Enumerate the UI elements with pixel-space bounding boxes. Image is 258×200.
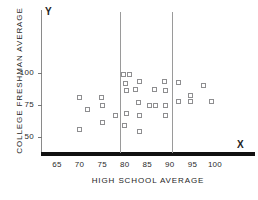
data-point — [188, 99, 193, 104]
reference-line-0 — [120, 12, 121, 153]
data-point — [176, 80, 181, 85]
y-tick-mark-50 — [38, 137, 42, 138]
data-point — [99, 95, 104, 100]
data-point — [100, 103, 105, 108]
x-tick-label-80: 80 — [114, 160, 136, 169]
data-point — [201, 83, 206, 88]
x-tick-label-85: 85 — [136, 160, 158, 169]
data-point — [163, 88, 168, 93]
data-point — [121, 72, 126, 77]
data-point — [176, 99, 181, 104]
y-axis-line — [41, 10, 42, 153]
y-axis-letter: Y — [45, 6, 52, 17]
data-point — [152, 87, 157, 92]
data-point — [124, 88, 129, 93]
data-point — [188, 93, 193, 98]
data-point — [77, 127, 82, 132]
x-axis-line — [41, 152, 255, 156]
data-point — [162, 79, 167, 84]
x-axis-title: HIGH SCHOOL AVERAGE — [41, 176, 255, 185]
x-tick-label-100: 100 — [204, 160, 226, 169]
data-point — [137, 79, 142, 84]
data-point — [137, 129, 142, 134]
x-tick-label-95: 95 — [181, 160, 203, 169]
data-point — [85, 107, 90, 112]
reference-line-1 — [172, 12, 173, 153]
x-axis-letter: X — [237, 139, 244, 150]
x-tick-label-75: 75 — [91, 160, 113, 169]
data-point — [136, 100, 141, 105]
y-tick-mark-75 — [38, 105, 42, 106]
scatter-plot-figure: Y X 5075100 65707580859095100 HIGH SCHOO… — [0, 0, 258, 200]
data-point — [133, 87, 138, 92]
data-point — [123, 81, 128, 86]
x-tick-label-65: 65 — [46, 160, 68, 169]
data-point — [137, 113, 142, 118]
x-tick-label-70: 70 — [69, 160, 91, 169]
data-point — [153, 103, 158, 108]
y-tick-mark-100 — [38, 73, 42, 74]
data-point — [147, 103, 152, 108]
y-axis-title: COLLEGE FRESHMAN AVERAGE — [15, 6, 24, 156]
data-point — [77, 95, 82, 100]
data-point — [113, 113, 118, 118]
data-point — [163, 113, 168, 118]
data-point — [127, 72, 132, 77]
data-point — [163, 103, 168, 108]
data-point — [124, 111, 129, 116]
data-point — [100, 120, 105, 125]
data-point — [122, 123, 127, 128]
data-point — [209, 99, 214, 104]
x-tick-label-90: 90 — [159, 160, 181, 169]
